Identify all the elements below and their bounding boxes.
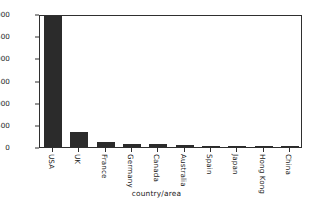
x-tick-mark	[184, 148, 185, 152]
y-tick-label: 0	[0, 144, 10, 151]
bar-chart-figure: 050010001500200025003000 USAUKFranceGerm…	[0, 0, 313, 205]
bar	[176, 145, 194, 147]
x-tick-mark	[157, 148, 158, 152]
x-tick-mark	[131, 148, 132, 152]
x-tick-mark	[263, 148, 264, 152]
x-tick-label: Spain	[206, 154, 213, 175]
bar-slot	[172, 16, 198, 147]
y-tick-label: 2000	[0, 56, 10, 63]
bar	[123, 144, 141, 147]
x-tick-mark	[78, 148, 79, 152]
x-tick-mark	[210, 148, 211, 152]
bar	[202, 146, 220, 147]
bar	[255, 146, 273, 147]
x-tick-label: Australia	[180, 154, 187, 187]
x-tick-mark	[105, 148, 106, 152]
x-tick-label: Hong Kong	[259, 154, 266, 194]
x-tick-label: China	[285, 154, 292, 175]
bar-slot	[277, 16, 301, 147]
bar-slot	[198, 16, 224, 147]
x-tick-mark	[52, 148, 53, 152]
y-tick-label: 500	[0, 122, 10, 129]
x-tick-label: Germany	[127, 154, 134, 188]
y-tick-label: 3000	[0, 11, 10, 18]
bar	[70, 132, 88, 147]
bar	[149, 144, 167, 147]
x-tick-label: USA	[48, 154, 55, 169]
y-tick-label: 1000	[0, 100, 10, 107]
bar-slot	[93, 16, 119, 147]
y-tick-label: 2500	[0, 34, 10, 41]
bar	[44, 16, 62, 147]
bar-slot	[119, 16, 145, 147]
y-tick-label: 1500	[0, 78, 10, 85]
bar-slot	[40, 16, 66, 147]
plot-axes-frame	[39, 15, 302, 148]
bar-slot	[66, 16, 92, 147]
x-tick-label: France	[101, 154, 108, 179]
plot-area	[40, 16, 301, 147]
bar-slot	[145, 16, 171, 147]
x-tick-label: UK	[74, 154, 81, 164]
x-tick-mark	[236, 148, 237, 152]
bar-slot	[224, 16, 250, 147]
x-tick-label: Japan	[232, 154, 239, 175]
x-tick-mark	[289, 148, 290, 152]
x-tick-label: Canada	[153, 154, 160, 182]
x-axis-title: country/area	[0, 189, 313, 198]
bar	[281, 146, 299, 147]
bar	[97, 142, 115, 147]
bar-slot	[250, 16, 276, 147]
bar	[228, 146, 246, 147]
